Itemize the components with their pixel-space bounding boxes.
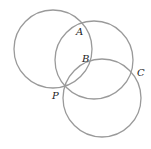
point-label-b: B xyxy=(81,53,89,64)
point-label-a: A xyxy=(75,26,83,37)
point-label-p: P xyxy=(51,90,59,101)
point-label-c: C xyxy=(137,67,145,78)
three-circles-diagram: A B C P xyxy=(0,0,151,149)
circle-top-left xyxy=(14,10,92,88)
